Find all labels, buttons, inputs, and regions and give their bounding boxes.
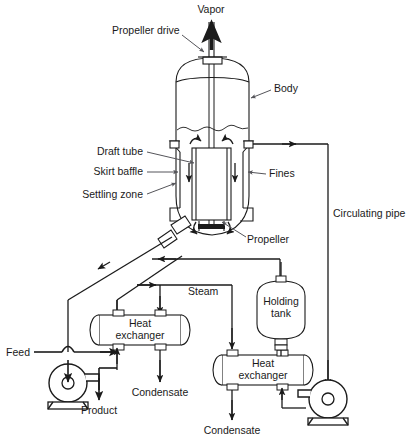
propeller-label: Propeller: [247, 233, 290, 245]
body-label: Body: [274, 82, 299, 94]
product-label: Product: [81, 404, 117, 416]
settling-zone-label: Settling zone: [82, 188, 143, 200]
drive-pedestal: [203, 57, 222, 64]
draft-tube: [192, 148, 231, 220]
circulating-pipe-label: Circulating pipe: [333, 207, 406, 219]
skirt-baffle-label: Skirt baffle: [94, 165, 144, 177]
condensate-left-label: Condensate: [132, 386, 189, 398]
propeller-drive-label: Propeller drive: [112, 24, 180, 36]
feed-label: Feed: [6, 346, 30, 358]
heat-exchanger-2-label-line1: Heat: [252, 357, 274, 369]
heat-exchanger-2: Heat exchanger: [213, 350, 313, 390]
heat-exchanger-1: Heat exchanger: [90, 310, 190, 350]
heat-exchanger-1-label-line1: Heat: [129, 317, 151, 329]
draft-tube-label: Draft tube: [97, 145, 143, 157]
crystallizer-flow-diagram: Heat exchanger Heat exchanger Holding ta…: [0, 0, 411, 441]
condensate-right-label: Condensate: [204, 424, 261, 436]
fines-label: Fines: [269, 167, 295, 179]
holding-tank-label-line1: Holding: [263, 295, 299, 307]
settling-zone: [170, 141, 179, 148]
vapor-label: Vapor: [197, 3, 225, 15]
holding-tank-label-line2: tank: [271, 307, 292, 319]
heat-exchanger-1-label-line2: exchanger: [115, 329, 165, 341]
steam-label: Steam: [188, 285, 219, 297]
heat-exchanger-2-label-line2: exchanger: [238, 369, 288, 381]
fines-offtake-nozzle: [244, 141, 253, 148]
